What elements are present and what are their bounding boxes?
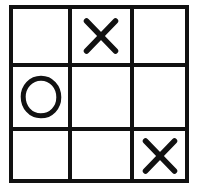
cell-top-right[interactable] (134, 9, 185, 63)
cell-bottom-center[interactable] (72, 131, 130, 181)
mark-x (81, 16, 121, 56)
cell-top-left[interactable] (13, 9, 68, 63)
mark-x (140, 136, 180, 176)
cell-top-center[interactable] (72, 9, 130, 63)
cell-bottom-left[interactable] (13, 131, 68, 181)
mark-x-icon (81, 16, 121, 56)
mark-x-icon (140, 136, 180, 176)
cell-middle-right[interactable] (134, 67, 185, 127)
mark-o (20, 75, 62, 119)
cell-bottom-right[interactable] (134, 131, 185, 181)
tic-tac-toe-board (0, 0, 200, 191)
cell-middle-left[interactable] (13, 67, 68, 127)
board-grid (9, 5, 189, 183)
cell-middle-center[interactable] (72, 67, 130, 127)
mark-o-icon (20, 75, 62, 119)
